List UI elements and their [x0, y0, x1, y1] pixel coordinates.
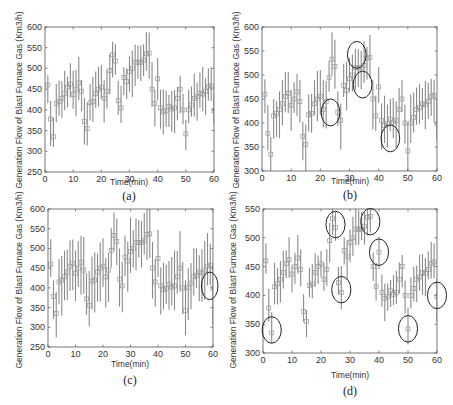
x-tick-label: 0: [259, 173, 264, 183]
panel-c: 0102030405060250300350400450500550600 Ti…: [14, 191, 218, 387]
x-tick-label: 0: [260, 355, 265, 365]
x-tick-label: 40: [153, 349, 163, 359]
y-tick-label: 600: [27, 22, 42, 32]
y-axis-label-b: Generation Flow of Blast Furnace Gas (Km…: [231, 11, 241, 188]
x-tick-label: 50: [181, 174, 191, 184]
y-tick-label: 250: [30, 342, 45, 352]
y-tick-label: 450: [245, 262, 260, 272]
y-tick-label: 400: [244, 118, 259, 128]
y-tick-label: 350: [27, 126, 42, 136]
x-tick-label: 60: [432, 173, 442, 183]
y-tick-label: 300: [244, 166, 259, 176]
y-tick-label: 400: [27, 105, 42, 115]
y-axis-label-a: Generation Flow of Blast Furnace Gas (Km…: [14, 11, 24, 188]
y-tick-label: 550: [244, 46, 259, 56]
y-axis-label-d: Generation Flow of Blast Furnace Gas (Km…: [228, 191, 238, 368]
y-tick-label: 550: [30, 224, 45, 234]
y-tick-label: 350: [244, 142, 259, 152]
x-tick-label: 50: [403, 173, 413, 183]
y-tick-label: 500: [245, 233, 260, 243]
x-tick-label: 10: [287, 355, 297, 365]
y-tick-label: 600: [244, 22, 259, 32]
highlight-ellipse: [347, 41, 366, 68]
x-tick-label: 50: [403, 355, 413, 365]
plot-area-d: 0102030405060300350400450500550: [245, 204, 447, 365]
data-series: [264, 209, 439, 344]
x-tick-label: 10: [286, 173, 296, 183]
y-tick-label: 500: [244, 70, 259, 80]
y-tick-label: 350: [245, 319, 260, 329]
caption-d: (d): [343, 384, 357, 398]
y-tick-label: 500: [30, 243, 45, 253]
y-tick-label: 550: [245, 204, 260, 214]
plot-area-b: 0102030405060300350400450500550600: [244, 22, 442, 183]
data-series: [46, 32, 216, 150]
highlight-ellipse: [321, 99, 340, 126]
x-tick-label: 50: [180, 349, 190, 359]
plot-area-c: 0102030405060250300350400450500550600: [30, 204, 218, 359]
y-tick-label: 600: [30, 204, 45, 214]
x-tick-label: 20: [315, 173, 325, 183]
y-tick-label: 350: [30, 303, 45, 313]
y-tick-label: 450: [30, 263, 45, 273]
x-tick-label: 60: [209, 174, 219, 184]
x-tick-label: 0: [42, 174, 47, 184]
x-tick-label: 20: [316, 355, 326, 365]
caption-c: (c): [123, 373, 136, 387]
x-axis-label-a: Time(min): [110, 177, 148, 187]
y-axis-label-c: Generation Flow of Blast Furnace Gas (Km…: [14, 191, 24, 368]
y-tick-label: 450: [244, 94, 259, 104]
caption-b: (b): [343, 188, 357, 202]
y-tick-label: 400: [245, 290, 260, 300]
panel-b: 0102030405060300350400450500550600 Time(…: [231, 11, 442, 202]
x-tick-label: 0: [45, 349, 50, 359]
y-tick-label: 400: [30, 283, 45, 293]
panel-d: 0102030405060300350400450500550 Time(min…: [228, 191, 447, 398]
x-tick-label: 20: [96, 174, 106, 184]
x-axis-label-d: Time(min): [331, 370, 369, 380]
y-tick-label: 500: [27, 63, 42, 73]
x-axis-label-c: Time(min): [111, 359, 149, 369]
y-tick-label: 550: [27, 43, 42, 53]
plot-area-a: 0102030405060250300350400450500550600: [27, 22, 219, 184]
y-tick-label: 450: [27, 84, 42, 94]
y-tick-label: 300: [30, 322, 45, 332]
y-tick-label: 250: [27, 167, 42, 177]
x-tick-label: 20: [98, 349, 108, 359]
data-series: [263, 32, 439, 171]
y-tick-label: 300: [245, 348, 260, 358]
data-series: [49, 209, 215, 338]
x-tick-label: 40: [374, 355, 384, 365]
x-tick-label: 30: [125, 349, 135, 359]
figure: 0102030405060250300350400450500550600 Ti…: [0, 0, 453, 405]
x-tick-label: 10: [70, 349, 80, 359]
caption-a: (a): [122, 189, 135, 203]
x-tick-label: 30: [345, 355, 355, 365]
highlight-ellipse: [353, 71, 372, 98]
x-tick-label: 60: [432, 355, 442, 365]
x-tick-label: 40: [153, 174, 163, 184]
x-tick-label: 60: [208, 349, 218, 359]
panel-a: 0102030405060250300350400450500550600 Ti…: [14, 11, 219, 203]
x-axis-label-b: Time(min): [331, 176, 369, 186]
y-tick-label: 300: [27, 146, 42, 156]
x-tick-label: 10: [68, 174, 78, 184]
x-tick-label: 40: [374, 173, 384, 183]
